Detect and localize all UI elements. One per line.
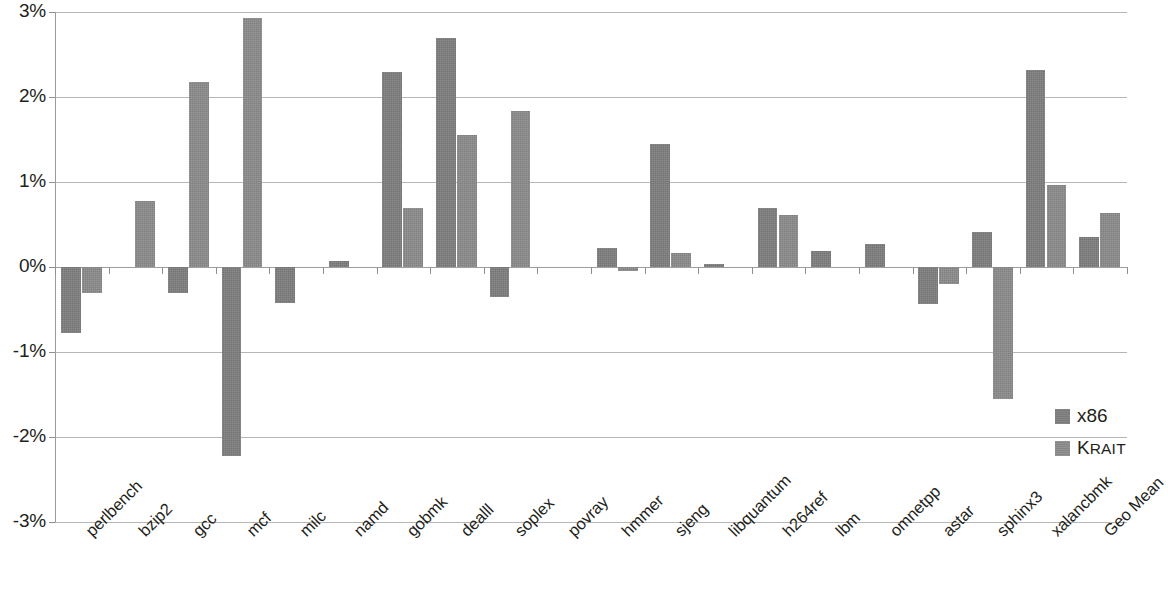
x-tick-mark xyxy=(430,267,431,274)
bar xyxy=(1079,237,1099,267)
bar xyxy=(329,261,349,267)
bar xyxy=(972,232,992,267)
bar-group xyxy=(972,12,1015,522)
bar xyxy=(704,264,724,267)
bar xyxy=(82,267,102,293)
bar xyxy=(779,215,799,267)
legend-swatch-x86 xyxy=(1055,409,1070,424)
chart-legend: x86 KRAIT xyxy=(1055,400,1135,464)
bar-group xyxy=(114,12,157,522)
x-axis-labels: perlbenchbzip2gccmcfmilcnamdgobmkdeallls… xyxy=(55,527,1127,613)
bar xyxy=(865,244,885,267)
bar-group xyxy=(489,12,532,522)
x-tick-mark xyxy=(323,267,324,274)
bar xyxy=(1100,213,1120,267)
y-tick-label: 3% xyxy=(0,0,46,22)
bar-group xyxy=(275,12,318,522)
bar-group xyxy=(436,12,479,522)
bar xyxy=(1026,70,1046,267)
bar-group xyxy=(382,12,425,522)
x-tick-mark xyxy=(1020,267,1021,274)
bar-group xyxy=(543,12,586,522)
bar-group xyxy=(757,12,800,522)
legend-label-x86: x86 xyxy=(1077,405,1108,427)
x-tick-mark xyxy=(966,267,967,274)
y-tick-label: -3% xyxy=(0,510,46,532)
x-tick-mark xyxy=(1127,267,1128,274)
x-tick-mark xyxy=(859,267,860,274)
legend-item-krait[interactable]: KRAIT xyxy=(1055,432,1135,464)
bar-group xyxy=(328,12,371,522)
y-tick-label: 2% xyxy=(0,85,46,107)
bar-group xyxy=(704,12,747,522)
x-tick-mark xyxy=(109,267,110,274)
bar-group xyxy=(221,12,264,522)
bar xyxy=(918,267,938,304)
bar xyxy=(403,208,423,267)
x-tick-mark xyxy=(216,267,217,274)
legend-label-krait-initial: K xyxy=(1077,437,1090,458)
bar-group xyxy=(811,12,854,522)
bar xyxy=(243,18,263,267)
bar-group xyxy=(864,12,907,522)
x-tick-mark xyxy=(1073,267,1074,274)
bar-groups xyxy=(55,12,1127,522)
legend-label-krait: KRAIT xyxy=(1077,437,1126,459)
x-tick-mark xyxy=(645,267,646,274)
bar xyxy=(650,144,670,267)
bar xyxy=(457,135,477,267)
y-tick-label: 0% xyxy=(0,255,46,277)
bar xyxy=(511,111,531,267)
x-tick-mark xyxy=(591,267,592,274)
bar xyxy=(168,267,188,293)
bar xyxy=(811,251,831,267)
x-tick-mark xyxy=(55,267,56,274)
x-tick-mark xyxy=(484,267,485,274)
bar xyxy=(189,82,209,267)
bar xyxy=(222,267,242,456)
bar xyxy=(993,267,1013,399)
legend-swatch-krait xyxy=(1055,441,1070,456)
x-tick-mark xyxy=(752,267,753,274)
x-tick-mark xyxy=(698,267,699,274)
bar xyxy=(1047,185,1067,267)
bar-group xyxy=(650,12,693,522)
bar xyxy=(758,208,778,267)
bar xyxy=(436,38,456,268)
bar-group xyxy=(596,12,639,522)
bar xyxy=(61,267,81,333)
bar xyxy=(135,201,155,267)
bar xyxy=(490,267,510,297)
bar xyxy=(939,267,959,284)
x-tick-mark xyxy=(162,267,163,274)
legend-item-x86[interactable]: x86 xyxy=(1055,400,1135,432)
y-tick-label: -2% xyxy=(0,425,46,447)
x-tick-mark xyxy=(913,267,914,274)
x-tick-mark xyxy=(377,267,378,274)
bar xyxy=(382,72,402,268)
bar-group xyxy=(60,12,103,522)
bar xyxy=(618,267,638,271)
bar-group xyxy=(168,12,211,522)
bar xyxy=(597,248,617,267)
bar xyxy=(275,267,295,303)
y-tick-label: 1% xyxy=(0,170,46,192)
x-tick-mark xyxy=(537,267,538,274)
bar-group xyxy=(918,12,961,522)
bar xyxy=(671,253,691,267)
y-tick-label: -1% xyxy=(0,340,46,362)
x-tick-mark xyxy=(269,267,270,274)
legend-label-krait-rest: RAIT xyxy=(1090,440,1126,457)
x-tick-mark xyxy=(805,267,806,274)
